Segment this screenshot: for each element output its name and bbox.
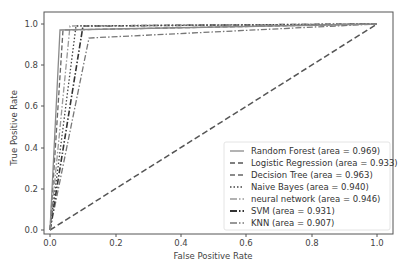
- legend: Random Forest (area = 0.969) Logistic Re…: [224, 142, 398, 230]
- svg-text:Random Forest (area = 0.969): Random Forest (area = 0.969): [251, 146, 380, 156]
- svg-text:Naive Bayes (area = 0.940): Naive Bayes (area = 0.940): [251, 182, 369, 192]
- svg-text:SVM (area = 0.931): SVM (area = 0.931): [251, 206, 335, 216]
- y-tick-label: 0.2: [24, 184, 38, 194]
- x-tick-label: 0.0: [43, 238, 57, 248]
- y-tick-label: 0.6: [24, 101, 38, 111]
- legend-item: Logistic Regression (area = 0.933): [230, 158, 398, 168]
- roc-chart: 0.0 0.2 0.4 0.6 0.8 1.0 True Positive Ra…: [0, 0, 407, 266]
- x-axis-label: False Positive Rate: [174, 251, 253, 261]
- legend-item: Naive Bayes (area = 0.940): [230, 182, 369, 192]
- x-axis: 0.0 0.2 0.4 0.6 0.8 1.0 False Positive R…: [43, 234, 384, 261]
- x-tick-label: 0.4: [174, 238, 188, 248]
- x-tick-label: 0.6: [239, 238, 253, 248]
- y-tick-label: 1.0: [24, 19, 38, 29]
- y-tick-label: 0.4: [24, 143, 38, 153]
- x-tick-label: 1.0: [370, 238, 384, 248]
- y-tick-label: 0.0: [24, 225, 38, 235]
- legend-item: Decision Tree (area = 0.963): [230, 170, 373, 180]
- y-axis-label: True Positive Rate: [9, 90, 19, 167]
- x-tick-label: 0.8: [305, 238, 319, 248]
- legend-item: Random Forest (area = 0.969): [230, 146, 380, 156]
- svg-text:Decision Tree (area = 0.963): Decision Tree (area = 0.963): [251, 170, 373, 180]
- svg-text:KNN (area = 0.907): KNN (area = 0.907): [251, 218, 334, 228]
- legend-item: neural network (area = 0.946): [230, 194, 380, 204]
- svg-text:Logistic Regression (area = 0.: Logistic Regression (area = 0.933): [251, 158, 398, 168]
- y-axis: 0.0 0.2 0.4 0.6 0.8 1.0 True Positive Ra…: [9, 19, 44, 235]
- x-tick-label: 0.2: [109, 238, 123, 248]
- y-tick-label: 0.8: [24, 60, 38, 70]
- svg-text:neural network (area = 0.946): neural network (area = 0.946): [251, 194, 380, 204]
